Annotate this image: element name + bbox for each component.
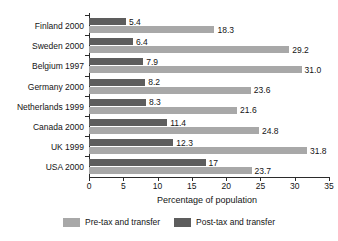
bar-post-tax: 8.2 bbox=[89, 79, 145, 86]
bar-value-label: 12.3 bbox=[176, 138, 193, 147]
y-axis-tick bbox=[85, 76, 89, 77]
bar-pre-tax: 31.0 bbox=[89, 66, 302, 73]
x-axis-tick-label: 35 bbox=[324, 182, 333, 191]
bar-group: UK 199912.331.8 bbox=[89, 139, 329, 154]
bar-post-tax: 17 bbox=[89, 159, 206, 166]
legend-label: Post-tax and transfer bbox=[196, 218, 275, 227]
x-axis-tick-label: 5 bbox=[121, 182, 126, 191]
legend-item: Pre-tax and transfer bbox=[63, 218, 160, 227]
y-axis-tick bbox=[85, 35, 89, 36]
bar-value-label: 31.8 bbox=[310, 146, 327, 155]
x-axis-tick-label: 15 bbox=[187, 182, 196, 191]
x-axis-title: Percentage of population bbox=[0, 195, 338, 205]
bar-value-label: 24.8 bbox=[262, 126, 279, 135]
category-label: Sweden 2000 bbox=[32, 42, 89, 51]
y-axis-tick bbox=[85, 96, 89, 97]
bar-group: Canada 200011.424.8 bbox=[89, 119, 329, 134]
y-axis-tick bbox=[85, 156, 89, 157]
y-axis-tick bbox=[85, 116, 89, 117]
bar-pre-tax: 23.7 bbox=[89, 167, 252, 174]
y-axis-tick bbox=[85, 55, 89, 56]
bar-value-label: 5.4 bbox=[129, 17, 141, 26]
bar-group: Netherlands 19998.321.6 bbox=[89, 99, 329, 114]
legend-swatch bbox=[174, 218, 191, 227]
bar-pre-tax: 18.3 bbox=[89, 26, 214, 33]
bar-pre-tax: 31.8 bbox=[89, 147, 307, 154]
bar-pre-tax: 23.6 bbox=[89, 87, 251, 94]
bar-group: USA 20001723.7 bbox=[89, 159, 329, 174]
bar-pre-tax: 24.8 bbox=[89, 127, 259, 134]
legend-item: Post-tax and transfer bbox=[174, 218, 275, 227]
x-axis-tick-label: 25 bbox=[256, 182, 265, 191]
y-axis-tick bbox=[85, 136, 89, 137]
bar-value-label: 29.2 bbox=[292, 45, 309, 54]
bar-post-tax: 12.3 bbox=[89, 139, 173, 146]
x-axis-tick-label: 10 bbox=[153, 182, 162, 191]
category-label: Germany 2000 bbox=[28, 82, 89, 91]
bar-value-label: 23.6 bbox=[254, 86, 271, 95]
bar-value-label: 31.0 bbox=[305, 66, 322, 75]
category-label: Finland 2000 bbox=[35, 22, 89, 31]
bar-post-tax: 8.3 bbox=[89, 99, 146, 106]
category-label: UK 1999 bbox=[51, 143, 89, 152]
bar-value-label: 11.4 bbox=[170, 118, 186, 127]
bar-group: Finland 20005.418.3 bbox=[89, 18, 329, 33]
category-label: Canada 2000 bbox=[33, 123, 89, 132]
legend-swatch bbox=[63, 218, 80, 227]
category-label: Belgium 1997 bbox=[32, 62, 89, 71]
bar-pre-tax: 29.2 bbox=[89, 46, 289, 53]
chart-legend: Pre-tax and transferPost-tax and transfe… bbox=[0, 218, 338, 227]
bar-group: Germany 20008.223.6 bbox=[89, 79, 329, 94]
category-label: Netherlands 1999 bbox=[17, 103, 89, 112]
x-axis-tick-label: 0 bbox=[87, 182, 92, 191]
bar-value-label: 17 bbox=[209, 159, 218, 168]
bar-pre-tax: 21.6 bbox=[89, 107, 237, 114]
bar-group: Belgium 19977.931.0 bbox=[89, 58, 329, 73]
bar-value-label: 8.3 bbox=[149, 98, 161, 107]
bar-value-label: 23.7 bbox=[255, 167, 272, 176]
bar-group: Sweden 20006.429.2 bbox=[89, 38, 329, 53]
x-axis-title-text: Percentage of population bbox=[81, 195, 257, 205]
bar-value-label: 7.9 bbox=[146, 58, 158, 67]
bar-chart: Finland 20005.418.3Sweden 20006.429.2Bel… bbox=[0, 0, 338, 241]
bar-post-tax: 7.9 bbox=[89, 58, 143, 65]
x-axis-tick-label: 20 bbox=[221, 182, 230, 191]
bar-value-label: 18.3 bbox=[217, 25, 234, 34]
bar-value-label: 8.2 bbox=[148, 78, 160, 87]
bar-post-tax: 5.4 bbox=[89, 18, 126, 25]
legend-label: Pre-tax and transfer bbox=[85, 218, 160, 227]
plot-area: Finland 20005.418.3Sweden 20006.429.2Bel… bbox=[89, 13, 329, 176]
x-axis-tick-label: 30 bbox=[290, 182, 299, 191]
bar-value-label: 6.4 bbox=[136, 37, 148, 46]
bar-post-tax: 6.4 bbox=[89, 38, 133, 45]
bar-post-tax: 11.4 bbox=[89, 119, 167, 126]
category-label: USA 2000 bbox=[46, 163, 89, 172]
bar-value-label: 21.6 bbox=[240, 106, 257, 115]
y-axis-tick bbox=[85, 15, 89, 16]
